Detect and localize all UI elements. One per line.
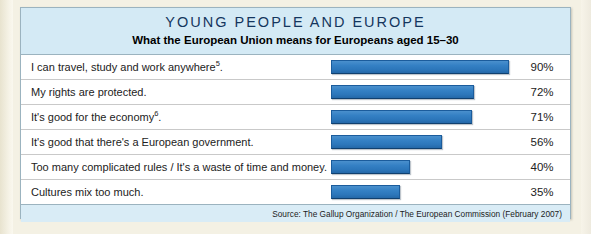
bar-track <box>331 130 514 155</box>
value-label: 40% <box>514 161 570 173</box>
table-row: Too many complicated rules / It's a wast… <box>21 155 570 180</box>
chart-panel: YOUNG PEOPLE AND EUROPE What the Europea… <box>20 7 571 219</box>
value-label: 90% <box>514 61 570 73</box>
source-text: Source: The Gallup Organization / The Eu… <box>272 209 562 219</box>
source-band: Source: The Gallup Organization / The Eu… <box>21 205 570 222</box>
bar-chart-rows: I can travel, study and work anywhere5.9… <box>21 55 570 205</box>
page-canvas: YOUNG PEOPLE AND EUROPE What the Europea… <box>0 0 591 234</box>
bar <box>331 160 410 174</box>
value-label: 56% <box>514 136 570 148</box>
row-label: It's good for the economy6. <box>21 111 331 124</box>
table-row: Cultures mix too much.35% <box>21 180 570 205</box>
bar-track <box>331 105 514 130</box>
bar-track <box>331 80 514 105</box>
bar-track <box>331 155 514 180</box>
table-row: I can travel, study and work anywhere5.9… <box>21 55 570 80</box>
value-label: 35% <box>514 186 570 198</box>
footnote-marker: 6 <box>154 109 158 118</box>
chart-subtitle: What the European Union means for Europe… <box>21 33 570 48</box>
bar <box>331 135 442 149</box>
row-label: Cultures mix too much. <box>21 186 331 199</box>
row-label: I can travel, study and work anywhere5. <box>21 61 331 74</box>
row-label: Too many complicated rules / It's a wast… <box>21 161 331 174</box>
bar-track <box>331 180 514 205</box>
bar <box>331 85 474 99</box>
page-title: YOUNG PEOPLE AND EUROPE <box>21 14 570 31</box>
table-row: It's good that there's a European govern… <box>21 130 570 155</box>
value-label: 71% <box>514 111 570 123</box>
value-label: 72% <box>514 86 570 98</box>
table-row: It's good for the economy6.71% <box>21 105 570 130</box>
bar <box>331 60 509 74</box>
bar <box>331 110 472 124</box>
bar-track <box>331 55 514 80</box>
row-label: My rights are protected. <box>21 86 331 99</box>
chart-header: YOUNG PEOPLE AND EUROPE What the Europea… <box>21 8 570 55</box>
table-row: My rights are protected.72% <box>21 80 570 105</box>
row-label: It's good that there's a European govern… <box>21 136 331 149</box>
bar <box>331 185 400 199</box>
footnote-marker: 5 <box>216 59 220 68</box>
